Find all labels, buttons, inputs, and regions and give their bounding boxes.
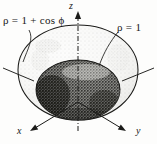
label-sphere-equation: ρ = 1 [117, 22, 141, 33]
axis-label-z: z [69, 1, 73, 11]
axis-label-x: x [17, 126, 21, 136]
axis-label-y: y [136, 126, 140, 136]
label-cardioid-equation: ρ = 1 + cos ϕ [3, 15, 65, 26]
figure-container: ρ = 1 + cos ϕ ρ = 1 z x y [0, 0, 157, 144]
